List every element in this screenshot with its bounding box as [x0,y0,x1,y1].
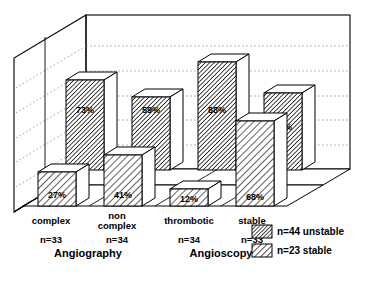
bar-value-label: 68% [246,192,264,202]
floor-front-left-edge [14,206,23,212]
group-label-angioscopy: Angioscopy [190,247,254,259]
chart-figure: 73% 59% 88% 62% 27 [0,0,373,282]
group-label-angiography: Angiography [54,247,123,259]
bar-value-label: 88% [208,105,226,115]
category-label-thrombotic: thrombotic [164,215,214,226]
bar-value-label: 59% [142,105,160,115]
legend-label-stable: n=23 stable [277,245,332,256]
bar-value-label: 12% [180,194,198,204]
bar-chart-3d: 73% 59% 88% 62% 27 [0,0,373,282]
legend-label-unstable: n=44 unstable [277,226,344,237]
legend-swatch-stable [252,244,272,257]
category-label-complex: complex [32,215,71,226]
bar-value-label: 73% [76,105,94,115]
bar-stable-noncomplex: 41% [104,147,155,206]
bar-stable-thrombotic: 12% [170,181,221,206]
bar-value-label: 41% [114,190,132,200]
category-count-complex: n=33 [40,234,62,245]
bar-value-label: 27% [48,190,66,200]
legend: n=44 unstable n=23 stable [252,225,344,257]
category-axis: complex n=33 non complex n=34 thrombotic… [32,210,266,259]
category-label-noncomplex-line2: complex [98,220,137,231]
category-label-stable: stable [238,215,265,226]
bar-stable-complex: 27% [38,164,89,206]
category-count-noncomplex: n=34 [106,234,129,245]
bar-stable-stable: 68% [236,113,287,206]
legend-swatch-unstable [252,225,272,238]
category-count-thrombotic: n=34 [178,234,201,245]
